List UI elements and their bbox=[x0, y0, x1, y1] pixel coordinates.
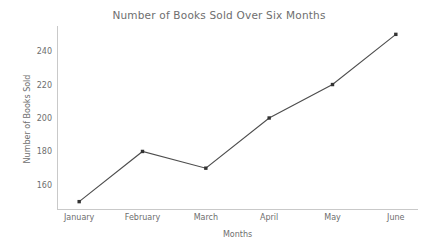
x-tick-label: May bbox=[324, 213, 341, 222]
data-point-marker bbox=[394, 33, 397, 36]
y-tick-label: 240 bbox=[37, 47, 52, 56]
x-tick-label: February bbox=[125, 213, 160, 222]
y-tick-label: 220 bbox=[37, 80, 52, 89]
x-axis-label: Months bbox=[57, 230, 418, 239]
axis-spines bbox=[57, 26, 418, 210]
data-markers bbox=[77, 33, 397, 204]
y-tick-label: 180 bbox=[37, 147, 52, 156]
chart-title: Number of Books Sold Over Six Months bbox=[0, 9, 438, 21]
data-point-marker bbox=[331, 83, 334, 86]
data-line bbox=[79, 34, 396, 201]
chart-figure: Number of Books Sold Over Six Months 160… bbox=[0, 0, 438, 242]
y-tick-label: 160 bbox=[37, 180, 52, 189]
data-point-marker bbox=[267, 116, 270, 119]
x-tick-label: January bbox=[64, 213, 94, 222]
line-plot-svg bbox=[57, 26, 418, 210]
x-tick-label: March bbox=[194, 213, 218, 222]
x-tick-label: June bbox=[387, 213, 404, 222]
data-point-marker bbox=[204, 166, 207, 169]
plot-area: 160180200220240 JanuaryFebruaryMarchApri… bbox=[57, 26, 418, 210]
data-point-marker bbox=[141, 150, 144, 153]
x-tick-label: April bbox=[260, 213, 278, 222]
y-axis-label: Number of Books Sold bbox=[23, 64, 32, 174]
data-point-marker bbox=[77, 200, 80, 203]
y-tick-label: 200 bbox=[37, 114, 52, 123]
